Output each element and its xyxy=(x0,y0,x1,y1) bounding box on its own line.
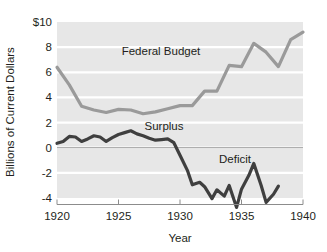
x-axis-title: Year xyxy=(168,232,191,244)
y-tick-label-6: 6 xyxy=(46,66,52,78)
annotation-federal-budget: Federal Budget xyxy=(122,45,201,57)
x-tick-label-1930: 1930 xyxy=(167,210,193,222)
y-tick-label-neg4: -4 xyxy=(42,192,53,204)
x-tick-label-1920: 1920 xyxy=(44,210,70,222)
y-tick-label-0: 0 xyxy=(46,142,52,154)
y-axis-title: Billions of Current Dollars xyxy=(4,47,16,177)
y-tick-label-neg2: -2 xyxy=(42,167,52,179)
x-tick-label-1940: 1940 xyxy=(290,210,316,222)
y-tick-label-10: $10 xyxy=(33,16,52,28)
chart-figure: $10 8 6 4 2 0 -2 -4 1920 1925 1930 1935 … xyxy=(0,0,327,252)
y-tick-label-8: 8 xyxy=(46,41,52,53)
federal-budget-line-chart: $10 8 6 4 2 0 -2 -4 1920 1925 1930 1935 … xyxy=(0,0,327,252)
x-tick-label-1925: 1925 xyxy=(106,210,132,222)
y-tick-label-2: 2 xyxy=(46,117,52,129)
annotation-deficit: Deficit xyxy=(219,153,252,165)
y-tick-label-4: 4 xyxy=(46,91,53,103)
x-tick-label-1935: 1935 xyxy=(229,210,255,222)
annotation-surplus: Surplus xyxy=(145,120,184,132)
